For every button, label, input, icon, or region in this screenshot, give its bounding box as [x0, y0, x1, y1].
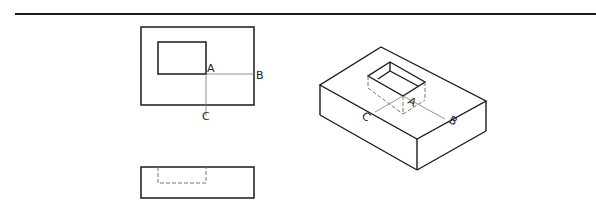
front-view-hidden-pocket [158, 167, 206, 183]
label-c-iso: C [360, 109, 373, 124]
top-view-pocket [158, 42, 206, 74]
technical-drawing: A B C A B C [0, 0, 596, 211]
label-a-iso: A [406, 94, 419, 109]
iso-section-line-c [375, 96, 403, 112]
label-a-top: A [207, 62, 215, 75]
front-view [141, 167, 254, 198]
iso-pocket-opening [368, 62, 425, 96]
label-b-iso: B [447, 113, 460, 128]
label-b-top: B [256, 69, 264, 82]
label-c-top: C [202, 110, 210, 123]
top-view: A B C [141, 27, 264, 123]
iso-bottom-left [320, 115, 417, 170]
iso-pocket-inner-back [378, 71, 390, 79]
iso-hidden-bottom-left [368, 88, 403, 114]
isometric-view [320, 47, 486, 170]
iso-bottom-right [417, 131, 486, 170]
iso-top-face [320, 47, 486, 139]
iso-pocket-inner-right [390, 71, 418, 86]
